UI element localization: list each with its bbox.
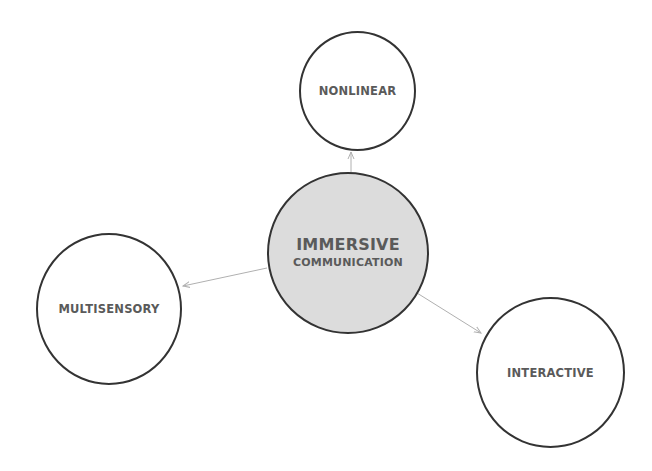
node-label: NONLINEAR [319,84,397,98]
node-nonlinear: NONLINEAR [299,31,416,151]
node-multisensory: MULTISENSORY [36,233,182,385]
node-label: INTERACTIVE [507,366,594,380]
node-interactive: INTERACTIVE [476,297,625,448]
arrow-to-multisensory [183,268,267,286]
arrow-to-interactive [417,293,481,333]
center-node-immersive-communication: IMMERSIVE COMMUNICATION [267,172,429,334]
center-title: IMMERSIVE [296,235,400,255]
concept-diagram: IMMERSIVE COMMUNICATION NONLINEAR MULTIS… [0,0,652,471]
center-subtitle: COMMUNICATION [293,255,403,271]
node-label: MULTISENSORY [58,302,159,316]
